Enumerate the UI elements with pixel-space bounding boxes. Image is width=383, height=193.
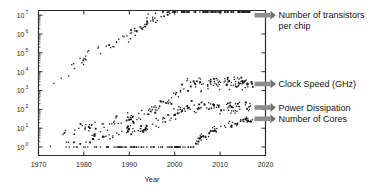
data-point [141,28,142,29]
svg-text:10: 10 [17,31,25,38]
data-point [216,131,217,132]
data-point [87,146,88,147]
data-point [240,119,241,120]
data-point [195,84,196,85]
data-point [235,81,236,82]
data-point [84,128,85,129]
data-point [219,89,220,90]
data-point [241,80,243,82]
data-point [83,58,84,59]
data-point [180,109,181,110]
data-point [244,80,246,82]
data-point [169,120,170,121]
data-point [249,109,250,110]
data-point [182,111,183,112]
data-point [100,53,101,54]
data-point [150,20,151,21]
data-point [127,117,128,118]
data-point [213,85,214,86]
data-point [219,81,220,82]
data-point [142,130,143,131]
data-point [217,86,218,87]
data-point [178,96,179,97]
data-point [179,146,180,147]
data-point [134,131,135,132]
data-point [234,113,235,114]
data-point [85,59,86,60]
data-point [169,13,170,14]
data-point [242,119,243,120]
data-point [110,47,111,48]
data-point [64,132,66,134]
data-point [185,11,186,12]
data-point [239,109,240,110]
data-point [204,103,205,104]
data-point [178,106,179,107]
data-point [106,46,107,47]
data-point [169,146,170,147]
svg-text:3: 3 [26,84,29,90]
data-point [190,82,191,83]
data-point [177,109,178,110]
data-point [155,22,156,23]
data-point [238,78,239,79]
data-point [251,83,252,84]
data-point [177,11,178,12]
data-point [225,80,226,81]
data-point [177,112,179,114]
data-point [163,16,164,17]
data-point [127,125,129,127]
data-point [225,127,226,128]
data-point [240,120,241,121]
data-point [246,117,247,118]
data-point [89,141,91,143]
data-point [230,85,231,86]
data-point [155,13,156,14]
annotation-label-line1: Number of transistors [279,10,366,20]
data-point [212,127,213,128]
x-tick-label: 1990 [122,161,138,168]
data-point [187,11,188,12]
data-point [129,129,130,130]
data-point [133,146,135,148]
data-point [159,105,160,106]
data-point [168,99,169,100]
data-point [245,87,246,88]
data-point [230,102,231,103]
data-point [132,131,133,132]
data-point [214,130,215,131]
data-point [103,127,104,128]
data-point [98,46,99,47]
data-point [243,11,245,13]
data-point [200,107,201,108]
data-point [210,130,212,132]
data-point [177,146,178,147]
data-point [143,27,144,28]
data-point [173,93,174,94]
data-point [206,139,207,140]
data-point [188,11,189,12]
data-point [200,139,201,140]
svg-text:10: 10 [17,125,25,132]
data-point [208,109,209,110]
data-point [237,103,239,105]
data-point [219,113,220,114]
svg-text:5: 5 [26,47,29,53]
data-point [134,30,135,31]
data-point [126,132,127,133]
data-point [94,122,95,123]
data-point [139,26,140,27]
data-point [167,14,169,16]
data-point [159,100,160,101]
data-point [85,56,86,57]
data-point [165,121,166,122]
data-point [91,125,92,126]
data-point [131,32,132,33]
data-point [247,122,248,123]
data-point [230,112,231,113]
svg-text:4: 4 [26,66,29,72]
data-point [214,107,215,108]
data-point [187,78,188,79]
data-point [153,21,154,22]
data-point [208,11,209,12]
